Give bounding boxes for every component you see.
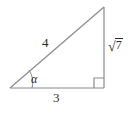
vertical-side-length-label: √7	[108, 39, 123, 54]
hypotenuse-length-label: 4	[42, 36, 49, 49]
radicand-value: 7	[115, 38, 123, 51]
right-angle-marker-icon	[94, 78, 104, 88]
triangle-drawing	[0, 0, 131, 114]
right-triangle-figure: 4 3 √7 α	[0, 0, 131, 114]
angle-alpha-label: α	[31, 73, 37, 85]
radical-expression: √7	[108, 39, 123, 54]
base-length-label: 3	[53, 91, 60, 104]
triangle-hypotenuse-line	[10, 7, 104, 88]
